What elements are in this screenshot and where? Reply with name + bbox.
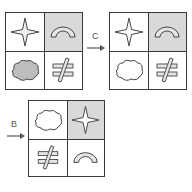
cell-star xyxy=(110,13,148,51)
transform-label-b: B xyxy=(11,119,17,129)
not-equal-sign-icon xyxy=(148,51,186,89)
cell-arch xyxy=(148,13,186,51)
cell-cloud xyxy=(110,51,148,89)
not-equal-sign-icon xyxy=(44,51,82,89)
cell-cloud xyxy=(6,51,44,89)
cloud-icon xyxy=(29,101,67,139)
arch-icon xyxy=(67,139,104,176)
grid-initial xyxy=(5,12,83,90)
cell-arch xyxy=(44,13,82,51)
cell-star xyxy=(67,101,104,139)
cloud-icon xyxy=(6,51,44,89)
grid-after-c xyxy=(109,12,187,90)
arrow-right-icon xyxy=(86,44,106,52)
arch-icon xyxy=(44,13,82,51)
cell-not-equal xyxy=(29,139,67,176)
transform-label-c: C xyxy=(92,31,99,41)
grid-after-b xyxy=(28,100,105,177)
cell-star xyxy=(6,13,44,51)
not-equal-sign-icon xyxy=(29,139,67,176)
cell-not-equal xyxy=(44,51,82,89)
cloud-icon xyxy=(110,51,148,89)
four-point-star-icon xyxy=(6,13,44,51)
cell-cloud xyxy=(29,101,67,139)
arch-icon xyxy=(148,13,186,51)
four-point-star-icon xyxy=(110,13,148,51)
cell-not-equal xyxy=(148,51,186,89)
cell-arch xyxy=(67,139,104,176)
arrow-right-icon xyxy=(6,132,26,140)
four-point-star-icon xyxy=(67,101,104,139)
